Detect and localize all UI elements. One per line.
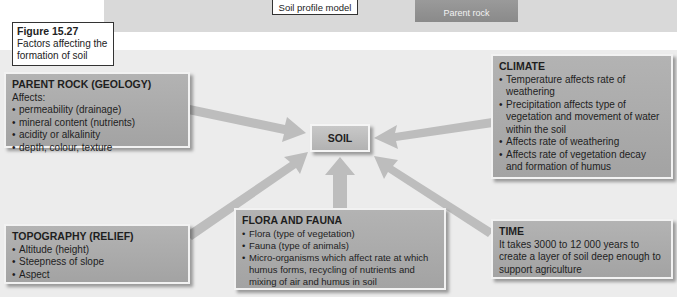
list-item: Temperature affects rate of weathering bbox=[499, 74, 665, 99]
time-text: It takes 3000 to 12 000 years to create … bbox=[499, 239, 665, 277]
time-box: TIME It takes 3000 to 12 000 years to cr… bbox=[491, 219, 673, 279]
figure-caption: Figure 15.27 Factors affecting the forma… bbox=[12, 22, 114, 66]
figure-number: Figure 15.27 bbox=[17, 25, 109, 38]
list-item: Micro-organisms which affect rate at whi… bbox=[242, 252, 438, 288]
arrow-parent-rock-icon bbox=[188, 105, 306, 142]
figure-caption-text: Factors affecting the formation of soil bbox=[17, 38, 107, 62]
list-item: Aspect bbox=[12, 269, 182, 282]
climate-box: CLIMATE Temperature affects rate of weat… bbox=[491, 54, 673, 179]
list-item: Precipitation affects type of vegetation… bbox=[499, 99, 665, 137]
list-item: acidity or alkalinity bbox=[12, 129, 182, 142]
arrow-climate-icon bbox=[374, 118, 493, 149]
arrow-flora-icon bbox=[325, 157, 355, 210]
topography-title: TOPOGRAPHY (RELIEF) bbox=[12, 230, 182, 243]
list-item: permeability (drainage) bbox=[12, 104, 182, 117]
list-item: Steepness of slope bbox=[12, 256, 182, 269]
climate-title: CLIMATE bbox=[499, 60, 665, 73]
flora-fauna-title: FLORA AND FAUNA bbox=[242, 214, 438, 227]
parent-rock-box: PARENT ROCK (GEOLOGY) Affects: permeabil… bbox=[4, 72, 190, 148]
list-item: Affects rate of vegetation decay and for… bbox=[499, 149, 665, 174]
list-item: Affects rate of weathering bbox=[499, 136, 665, 149]
parent-rock-intro: Affects: bbox=[12, 92, 182, 105]
flora-fauna-box: FLORA AND FAUNA Flora (type of vegetatio… bbox=[234, 208, 446, 290]
parent-rock-title: PARENT ROCK (GEOLOGY) bbox=[12, 78, 182, 91]
list-item: Altitude (height) bbox=[12, 244, 182, 257]
soil-box: SOIL bbox=[310, 124, 370, 152]
list-item: depth, colour, texture bbox=[12, 142, 182, 155]
list-item: Flora (type of vegetation) bbox=[242, 228, 438, 240]
list-item: mineral content (nutrients) bbox=[12, 117, 182, 130]
time-title: TIME bbox=[499, 225, 665, 238]
list-item: Fauna (type of animals) bbox=[242, 240, 438, 252]
topography-box: TOPOGRAPHY (RELIEF) Altitude (height) St… bbox=[4, 224, 190, 284]
